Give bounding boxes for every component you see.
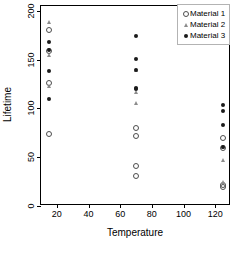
data-point — [221, 180, 225, 184]
x-axis-tick-label: 120 — [208, 209, 223, 219]
legend-marker-filled-circle-icon — [181, 34, 190, 38]
legend-item-label: Material 3 — [190, 31, 225, 40]
y-axis-tick — [37, 60, 41, 61]
data-point — [221, 158, 225, 162]
x-axis-tick — [57, 204, 58, 208]
data-point — [220, 184, 226, 190]
y-axis-tick — [37, 206, 41, 207]
data-point — [221, 123, 225, 127]
legend-marker-open-circle-icon — [181, 11, 190, 17]
x-axis-tick — [184, 204, 185, 208]
data-point — [134, 57, 138, 61]
data-point — [133, 163, 139, 169]
legend-item: Material 3 — [181, 30, 225, 41]
data-point — [47, 20, 51, 24]
legend: Material 1Material 2Material 3 — [177, 4, 230, 45]
y-axis-tick-label: 50 — [26, 152, 36, 162]
legend-item-label: Material 2 — [190, 20, 225, 29]
legend-item-label: Material 1 — [190, 9, 225, 18]
x-axis-tick-label: 100 — [176, 209, 191, 219]
data-point — [47, 97, 51, 101]
x-axis-tick-label: 60 — [115, 209, 125, 219]
data-point — [221, 109, 225, 113]
data-point — [47, 69, 51, 73]
data-point — [133, 173, 139, 179]
y-axis-tick-label: 150 — [26, 52, 36, 67]
legend-item: Material 1 — [181, 8, 225, 19]
y-axis-tick — [37, 11, 41, 12]
data-point — [220, 135, 226, 141]
data-point — [47, 40, 51, 44]
y-axis-tick-label: 0 — [26, 203, 36, 208]
y-axis-tick — [37, 108, 41, 109]
data-point — [221, 145, 225, 149]
x-axis-tick — [120, 204, 121, 208]
x-axis-title-text: Temperature — [107, 227, 163, 238]
data-point — [134, 34, 138, 38]
scatter-plot-figure: Lifetime 050100150200 20406080100120 Tem… — [0, 0, 236, 255]
x-axis-tick-label: 40 — [83, 209, 93, 219]
data-point — [134, 68, 138, 72]
x-axis-tick — [215, 204, 216, 208]
x-axis-title: Temperature — [40, 227, 230, 239]
x-axis-tick-label: 80 — [147, 209, 157, 219]
legend-item: Material 2 — [181, 19, 225, 30]
data-point — [133, 133, 139, 139]
legend-marker-triangle-icon — [181, 23, 190, 27]
y-axis-tick — [37, 157, 41, 158]
data-point — [134, 101, 138, 105]
y-axis-tick-label: 100 — [26, 101, 36, 116]
data-point — [46, 27, 52, 33]
data-point — [221, 103, 225, 107]
data-point — [133, 125, 139, 131]
x-axis-tick — [152, 204, 153, 208]
data-point — [47, 53, 51, 57]
y-axis-tick-label: 200 — [26, 3, 36, 18]
x-axis-tick-label: 20 — [52, 209, 62, 219]
y-axis-title-text: Lifetime — [2, 87, 14, 122]
x-axis-tick — [89, 204, 90, 208]
data-point — [134, 87, 138, 91]
y-axis-title: Lifetime — [2, 5, 14, 205]
data-point — [47, 84, 51, 88]
data-point — [46, 131, 52, 137]
data-point — [47, 48, 51, 52]
